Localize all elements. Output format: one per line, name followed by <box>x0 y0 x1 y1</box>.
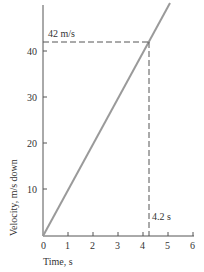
x-tick-label-2: 2 <box>90 240 95 251</box>
x-ticks <box>68 232 193 236</box>
y-tick-label-40: 40 <box>27 46 37 57</box>
x-tick-label-0: 0 <box>41 240 46 251</box>
x-tick-label-5: 5 <box>165 240 170 251</box>
y-tick-label-10: 10 <box>27 184 37 195</box>
velocity-annotation: 42 m/s <box>48 28 75 39</box>
y-axis-label: Velocity, m/s down <box>8 159 19 236</box>
y-ticks <box>43 51 47 189</box>
x-tick-label-4: 4 <box>140 240 145 251</box>
time-annotation: 4.2 s <box>152 211 171 222</box>
x-tick-label-3: 3 <box>115 240 120 251</box>
x-tick-label-1: 1 <box>65 240 70 251</box>
x-axis-label: Time, s <box>43 256 73 267</box>
velocity-time-chart: 40 30 20 10 0 1 2 3 4 5 6 42 m/s 4.2 s T… <box>0 0 204 272</box>
y-tick-label-30: 30 <box>27 92 37 103</box>
x-tick-label-6: 6 <box>190 240 195 251</box>
y-tick-label-20: 20 <box>27 138 37 149</box>
